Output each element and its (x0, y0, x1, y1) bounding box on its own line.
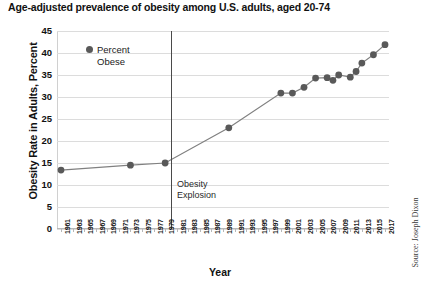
x-tick-2007: 2007 (330, 219, 337, 234)
x-tick-1963: 1963 (76, 219, 83, 234)
x-tick-1999: 1999 (284, 219, 291, 234)
x-tick-2009: 2009 (342, 219, 349, 234)
x-tick-1969: 1969 (110, 219, 117, 234)
x-tick-mark-2017 (385, 229, 386, 232)
y-tick-20: 20 (6, 135, 52, 146)
x-tick-1981: 1981 (180, 219, 187, 234)
x-tick-1971: 1971 (122, 219, 129, 234)
x-tick-mark-2005 (316, 229, 317, 232)
chart-legend: Percent Obese (86, 44, 145, 68)
x-tick-mark-1999 (281, 229, 282, 232)
x-tick-1987: 1987 (214, 219, 221, 234)
x-tick-2003: 2003 (307, 219, 314, 234)
x-tick-mark-1983 (188, 229, 189, 232)
x-tick-mark-1965 (84, 229, 85, 232)
x-tick-1995: 1995 (261, 219, 268, 234)
y-tick-40: 40 (6, 47, 52, 58)
x-tick-mark-1973 (130, 229, 131, 232)
x-tick-1983: 1983 (191, 219, 198, 234)
data-point-2013 (358, 60, 365, 67)
x-tick-mark-1971 (119, 229, 120, 232)
y-axis-tick-labels: 454035302520151050 (0, 31, 52, 229)
x-tick-1977: 1977 (157, 219, 164, 234)
x-tick-1975: 1975 (145, 219, 152, 234)
x-tick-1979: 1979 (168, 219, 175, 234)
data-point-2017 (382, 41, 389, 48)
x-tick-1961: 1961 (64, 219, 71, 234)
x-tick-mark-1981 (177, 229, 178, 232)
x-tick-mark-1961 (61, 229, 62, 232)
x-tick-mark-1997 (269, 229, 270, 232)
data-point-2009 (335, 72, 342, 79)
source-note: Source: Joseph Dixon (411, 158, 420, 289)
y-tick-0: 0 (6, 223, 52, 234)
x-tick-1965: 1965 (87, 219, 94, 234)
data-point-2011 (347, 74, 354, 81)
x-tick-1973: 1973 (133, 219, 140, 234)
data-point-1961 (58, 167, 65, 174)
legend-label: Percent Obese (97, 44, 145, 68)
obesity-explosion-marker-line (171, 31, 172, 229)
y-tick-10: 10 (6, 179, 52, 190)
x-tick-2011: 2011 (353, 220, 360, 234)
x-tick-1991: 1991 (238, 219, 245, 234)
x-tick-2015: 2015 (376, 219, 383, 234)
x-tick-mark-1993 (246, 229, 247, 232)
data-point-1979 (162, 160, 169, 167)
x-tick-mark-2011 (350, 229, 351, 232)
x-tick-mark-1975 (142, 229, 143, 232)
x-tick-mark-2015 (373, 229, 374, 232)
x-tick-mark-1967 (96, 229, 97, 232)
x-tick-mark-2013 (362, 229, 363, 232)
y-tick-35: 35 (6, 69, 52, 80)
x-tick-mark-1989 (223, 229, 224, 232)
x-tick-mark-2001 (292, 229, 293, 232)
y-tick-25: 25 (6, 113, 52, 124)
x-tick-2005: 2005 (319, 219, 326, 234)
legend-marker-icon (86, 46, 93, 53)
y-tick-30: 30 (6, 91, 52, 102)
x-tick-2013: 2013 (365, 219, 372, 234)
x-tick-2017: 2017 (388, 219, 395, 234)
x-tick-mark-1985 (200, 229, 201, 232)
data-point-2012 (353, 68, 360, 75)
data-point-1999 (277, 90, 284, 97)
x-tick-2001: 2001 (295, 219, 302, 234)
x-tick-mark-2009 (339, 229, 340, 232)
obesity-explosion-annotation: Obesity Explosion (177, 179, 216, 202)
data-point-1990 (225, 124, 232, 131)
annotation-line-1: Obesity (177, 179, 216, 190)
x-tick-mark-1979 (165, 229, 166, 232)
x-tick-1967: 1967 (99, 219, 106, 234)
y-tick-5: 5 (6, 201, 52, 212)
x-tick-mark-1987 (211, 229, 212, 232)
x-axis-title: Year (55, 266, 385, 278)
data-point-2001 (289, 90, 296, 97)
x-tick-mark-1995 (258, 229, 259, 232)
x-tick-mark-1969 (107, 229, 108, 232)
x-tick-mark-2003 (304, 229, 305, 232)
y-tick-45: 45 (6, 25, 52, 36)
x-tick-1997: 1997 (272, 219, 279, 234)
x-tick-mark-2007 (327, 229, 328, 232)
data-point-2008 (330, 77, 337, 84)
x-tick-1985: 1985 (203, 219, 210, 234)
obesity-prevalence-chart: Age-adjusted prevalence of obesity among… (0, 0, 425, 289)
data-point-2007 (324, 74, 331, 81)
y-tick-15: 15 (6, 157, 52, 168)
data-point-2015 (370, 51, 377, 58)
x-tick-mark-1977 (154, 229, 155, 232)
data-point-2003 (301, 84, 308, 91)
x-tick-1989: 1989 (226, 219, 233, 234)
data-point-1973 (127, 162, 134, 169)
x-tick-1993: 1993 (249, 219, 256, 234)
chart-title: Age-adjusted prevalence of obesity among… (8, 1, 417, 13)
x-tick-mark-1991 (235, 229, 236, 232)
annotation-line-2: Explosion (177, 190, 216, 201)
x-tick-mark-1963 (73, 229, 74, 232)
data-point-2005 (312, 75, 319, 82)
